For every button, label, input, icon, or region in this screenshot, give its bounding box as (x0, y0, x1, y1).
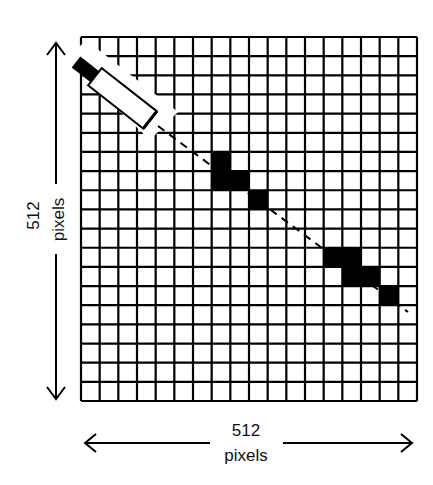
filled-pixel (249, 190, 268, 210)
horizontal-dimension-unit: pixels (211, 447, 281, 464)
filled-pixel (324, 248, 343, 268)
filled-pixel (212, 171, 231, 191)
filled-pixel (361, 267, 380, 287)
vertical-dimension-unit: pixels (50, 195, 67, 245)
filled-pixel (342, 248, 361, 268)
scan-line (158, 126, 408, 312)
horizontal-dimension-value: 512 (216, 422, 276, 439)
vertical-dimension-value: 512 (25, 201, 42, 231)
